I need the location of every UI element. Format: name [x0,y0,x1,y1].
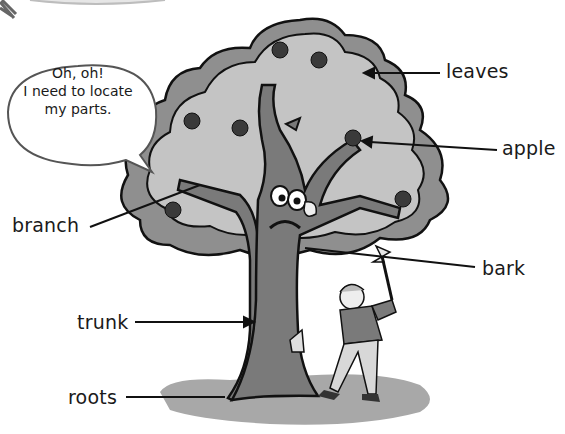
apple-icon [165,202,181,218]
label-branch: branch [12,214,79,236]
speech-bubble-text: Oh, oh! I need to locate my parts. [8,64,148,118]
speech-line-3: my parts. [8,100,148,118]
label-apple: apple [502,137,556,159]
apple-icon [345,130,361,146]
speech-line-2: I need to locate [8,82,148,100]
label-bark: bark [482,257,525,279]
apple-icon [184,113,200,129]
bark-pointer [305,248,475,267]
speech-line-1: Oh, oh! [8,64,148,82]
apple-icon [311,52,327,68]
apple-icon [395,191,411,207]
label-trunk: trunk [77,311,128,333]
apple-icon [232,120,248,136]
apple-icon [272,42,288,58]
banner-decoration [0,0,165,18]
label-roots: roots [68,386,117,408]
label-leaves: leaves [446,60,509,82]
